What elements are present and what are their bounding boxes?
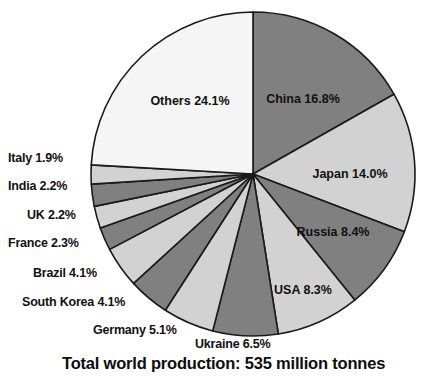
- pie-slice-others[interactable]: [91, 12, 253, 174]
- slice-label-uk: UK 2.2%: [27, 208, 76, 222]
- slice-label-brazil: Brazil 4.1%: [33, 266, 97, 280]
- slice-label-japan: Japan 14.0%: [312, 167, 387, 181]
- slice-label-south-korea: South Korea 4.1%: [22, 295, 125, 309]
- slice-label-ukraine: Ukraine 6.5%: [195, 337, 270, 351]
- slice-label-usa: USA 8.3%: [274, 283, 332, 297]
- slice-label-india: India 2.2%: [8, 179, 67, 193]
- slice-label-russia: Russia 8.4%: [297, 225, 370, 239]
- pie-chart: China 16.8%Japan 14.0%Russia 8.4%USA 8.3…: [0, 0, 429, 382]
- chart-title: Total world production: 535 million tonn…: [62, 354, 385, 373]
- slice-label-others: Others 24.1%: [150, 94, 229, 108]
- slice-label-france: France 2.3%: [8, 236, 79, 250]
- slice-label-germany: Germany 5.1%: [93, 323, 177, 337]
- slice-label-italy: Italy 1.9%: [8, 151, 63, 165]
- slice-label-china: China 16.8%: [266, 92, 340, 106]
